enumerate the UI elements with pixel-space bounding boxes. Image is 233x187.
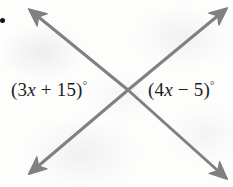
left-operator: + <box>41 79 52 100</box>
right-operator: − <box>178 79 189 100</box>
angle-label-right: (4x − 5)° <box>148 80 215 99</box>
ray-lower-right <box>128 90 226 178</box>
angle-label-left: (3x + 15)° <box>11 80 87 99</box>
right-degree-symbol: ° <box>210 79 215 91</box>
left-degree-symbol: ° <box>83 79 88 91</box>
right-constant: 5 <box>194 79 204 100</box>
left-constant: 15 <box>57 79 76 100</box>
right-variable: x <box>164 79 173 100</box>
ray-upper-left <box>30 10 128 90</box>
ray-lower-left <box>30 90 128 173</box>
left-variable: x <box>27 79 36 100</box>
right-coefficient: 4 <box>155 79 165 100</box>
geometry-figure: (3x + 15)° (4x − 5)° <box>0 0 233 187</box>
left-coefficient: 3 <box>18 79 28 100</box>
